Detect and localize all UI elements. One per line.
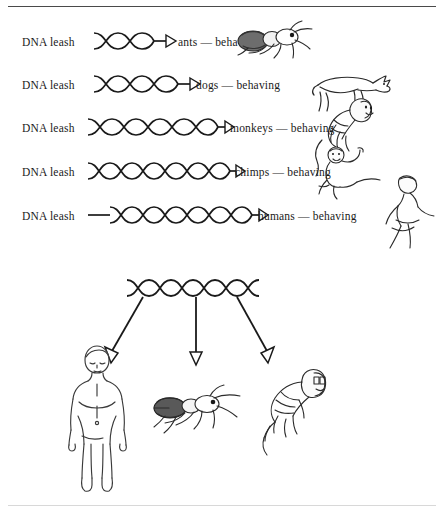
dna-leash-arrow-chimps [86, 155, 246, 187]
page-top-rule [8, 6, 436, 7]
ant-illustration [236, 20, 314, 62]
human-figure [58, 344, 136, 494]
ant-figure [152, 384, 248, 442]
leash-label-ants: DNA leash [22, 36, 75, 48]
species-label-dogs: dogs — behaving [196, 79, 280, 91]
page-bottom-rule [8, 505, 436, 506]
dna-leash-arrow-ants [92, 25, 178, 57]
dna-leash-figure: DNA leash ants — behaving [0, 0, 443, 513]
leash-row-humans: DNA leash humans — behaving [0, 210, 443, 254]
species-label-humans: humans — behaving [258, 210, 357, 222]
monkey-figure [256, 366, 350, 458]
dna-leash-arrow-humans [86, 199, 270, 231]
leash-label-humans: DNA leash [22, 210, 75, 222]
human-standing-illustration [374, 172, 440, 250]
dna-leash-arrow-dogs [92, 68, 202, 100]
dna-leash-arrow-monkeys [86, 111, 236, 143]
leash-label-monkeys: DNA leash [22, 122, 75, 134]
leash-label-dogs: DNA leash [22, 79, 75, 91]
leash-label-chimps: DNA leash [22, 166, 75, 178]
